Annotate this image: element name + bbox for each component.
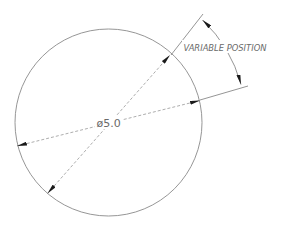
drawing-canvas: ø5.0 VARIABLE POSITION	[0, 0, 282, 227]
variable-position-label: VARIABLE POSITION	[184, 43, 268, 53]
extension-line-lower	[200, 86, 248, 100]
diameter-label: ø5.0	[97, 117, 121, 130]
